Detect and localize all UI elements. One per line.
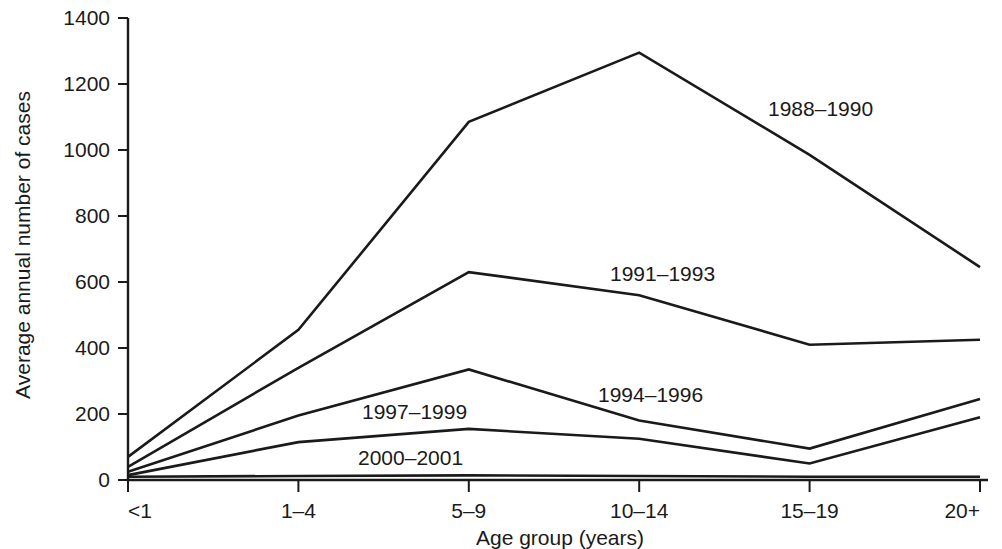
- y-tick-label: 0: [98, 468, 110, 491]
- series-label: 1991–1993: [610, 262, 715, 285]
- y-axis-title: Average annual number of cases: [11, 91, 34, 399]
- series-label: 1988–1990: [768, 97, 873, 120]
- y-tick-label: 200: [75, 402, 110, 425]
- series-label: 1997–1999: [362, 400, 467, 423]
- series-label: 1994–1996: [598, 383, 703, 406]
- y-tick-label: 800: [75, 204, 110, 227]
- x-tick-label: 1–4: [281, 499, 316, 522]
- y-tick-label: 1400: [63, 6, 110, 29]
- series-line-2000-2001: [128, 475, 980, 476]
- x-tick-label: 5–9: [451, 499, 486, 522]
- chart-canvas: 0200400600800100012001400 <11–45–910–141…: [0, 0, 1002, 549]
- y-tick-label: 1200: [63, 72, 110, 95]
- line-chart: 0200400600800100012001400 <11–45–910–141…: [0, 0, 1002, 549]
- y-tick-label: 600: [75, 270, 110, 293]
- series-label: 2000–2001: [358, 446, 463, 469]
- x-tick-label: 15–19: [780, 499, 838, 522]
- series-line-1997-1999: [128, 417, 980, 475]
- y-tick-label: 1000: [63, 138, 110, 161]
- series-line-1991-1993: [128, 272, 980, 467]
- x-tick-label: 20+: [944, 499, 980, 522]
- y-tick-label: 400: [75, 336, 110, 359]
- x-tick-label: 10–14: [610, 499, 669, 522]
- x-tick-label: <1: [128, 499, 152, 522]
- x-axis-title: Age group (years): [476, 526, 644, 549]
- x-axis: <11–45–910–1415–1920+: [128, 480, 988, 522]
- series-line-1994-1996: [128, 369, 980, 471]
- y-axis: 0200400600800100012001400: [63, 6, 128, 491]
